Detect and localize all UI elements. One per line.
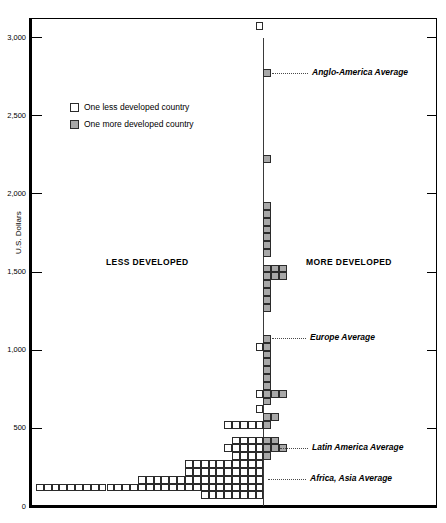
histogram-cell-more <box>263 437 271 445</box>
histogram-cell-less <box>232 484 240 492</box>
histogram-cell-less <box>224 476 232 484</box>
histogram-cell-less <box>114 484 122 492</box>
histogram-cell-more <box>271 265 279 273</box>
histogram-cell-more <box>271 413 279 421</box>
y-tick-right-1,500 <box>427 272 437 273</box>
histogram-cell-less <box>224 491 232 499</box>
histogram-cell-less <box>256 476 264 484</box>
histogram-cell-less <box>240 437 248 445</box>
chart-legend: One less developed countryOne more devel… <box>70 103 260 135</box>
annotation-label: Anglo-America Average <box>312 67 408 77</box>
histogram-cell-less <box>248 468 256 476</box>
y-tick-right-2,000 <box>427 193 437 194</box>
histogram-cell-more <box>263 249 271 257</box>
histogram-cell-less <box>59 484 67 492</box>
histogram-cell-less <box>216 491 224 499</box>
annotation-label: Europe Average <box>310 332 375 342</box>
histogram-cell-more <box>263 452 271 460</box>
histogram-cell-less <box>232 468 240 476</box>
histogram-cell-less <box>248 476 256 484</box>
annotation-leader-line <box>280 448 308 449</box>
histogram-cell-less <box>232 421 240 429</box>
histogram-cell-less <box>248 437 256 445</box>
histogram-cell-less <box>240 460 248 468</box>
histogram-cell-less <box>185 484 193 492</box>
histogram-cell-more <box>263 226 271 234</box>
histogram-cell-less <box>216 476 224 484</box>
histogram-cell-less <box>232 444 240 452</box>
histogram-cell-less <box>161 484 169 492</box>
annotation-label: Africa, Asia Average <box>310 473 392 483</box>
y-tick-2,000 <box>31 193 42 194</box>
histogram-cell-more <box>263 390 271 398</box>
histogram-cell-less <box>169 476 177 484</box>
histogram-cell-less <box>256 460 264 468</box>
histogram-cell-less <box>201 460 209 468</box>
histogram-cell-less <box>52 484 60 492</box>
histogram-cell-less <box>240 476 248 484</box>
histogram-cell-less <box>240 484 248 492</box>
annotation-leader-line <box>268 479 306 480</box>
histogram-cell-more <box>279 272 287 280</box>
histogram-cell-less <box>201 491 209 499</box>
y-tick-label: 1,000 <box>0 345 26 354</box>
histogram-cell-more <box>263 351 271 359</box>
histogram-cell-more <box>279 265 287 273</box>
histogram-cell-more <box>271 272 279 280</box>
y-tick-right-1,000 <box>427 350 437 351</box>
y-tick-right-2,500 <box>427 115 437 116</box>
histogram-cell-less <box>177 476 185 484</box>
histogram-cell-less <box>185 476 193 484</box>
y-tick-1,500 <box>31 272 42 273</box>
histogram-cell-less <box>169 484 177 492</box>
histogram-cell-more <box>263 272 271 280</box>
y-tick-label: 1,500 <box>0 267 26 276</box>
histogram-cell-more <box>263 288 271 296</box>
histogram-cell-less <box>201 476 209 484</box>
histogram-cell-more <box>279 390 287 398</box>
histogram-cell-less <box>216 468 224 476</box>
y-tick-right-500 <box>427 428 437 429</box>
histogram-cell-less <box>201 484 209 492</box>
histogram-cell-less <box>248 484 256 492</box>
histogram-cell-less <box>248 444 256 452</box>
histogram-cell-less <box>240 491 248 499</box>
y-tick-label: 500 <box>0 423 26 432</box>
histogram-cell-less <box>248 452 256 460</box>
histogram-cell-less <box>138 476 146 484</box>
histogram-cell-less <box>146 484 154 492</box>
histogram-cell-more <box>263 233 271 241</box>
y-axis-line <box>29 18 32 508</box>
histogram-cell-more <box>263 444 271 452</box>
histogram-cell-less <box>209 468 217 476</box>
y-tick-label: 2,000 <box>0 189 26 198</box>
histogram-cell-less <box>193 484 201 492</box>
histogram-cell-more <box>271 390 279 398</box>
histogram-cell-less <box>216 460 224 468</box>
section-label-more-developed: MORE DEVELOPED <box>306 257 392 267</box>
histogram-cell-more <box>263 218 271 226</box>
histogram-cell-more <box>263 374 271 382</box>
histogram-cell-less <box>154 476 162 484</box>
histogram-cell-less <box>248 421 256 429</box>
legend-swatch-more-icon <box>70 120 79 129</box>
histogram-cell-less <box>224 444 232 452</box>
histogram-cell-less <box>36 484 44 492</box>
histogram-cell-less <box>75 484 83 492</box>
annotation-leader-line <box>272 338 306 339</box>
histogram-cell-more <box>263 413 271 421</box>
histogram-cell-less <box>83 484 91 492</box>
annotation-leader-line <box>272 73 308 74</box>
histogram-cell-more <box>263 343 271 351</box>
annotation-label: Latin America Average <box>312 442 404 452</box>
histogram-cell-more <box>263 398 271 406</box>
y-tick-1,000 <box>31 350 42 351</box>
histogram-cell-less <box>193 476 201 484</box>
histogram-cell-less <box>154 484 162 492</box>
histogram-cell-less <box>146 476 154 484</box>
histogram-cell-less <box>201 468 209 476</box>
histogram-cell-more <box>263 69 271 77</box>
histogram-cell-less <box>44 484 52 492</box>
legend-label: One less developed country <box>84 102 189 112</box>
histogram-cell-less <box>193 460 201 468</box>
